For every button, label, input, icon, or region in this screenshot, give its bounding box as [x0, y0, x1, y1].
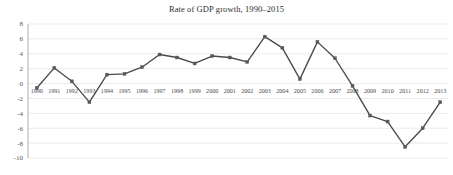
data-point-marker: [386, 120, 389, 123]
x-axis-tick-label: 2001: [224, 88, 236, 94]
y-axis-tick-label: -2: [17, 95, 23, 103]
y-axis: 86420-2-4-6-8-10: [14, 20, 28, 162]
y-axis-tick-label: -4: [17, 110, 23, 118]
data-point-marker: [53, 66, 56, 69]
x-axis-tick-label: 1997: [153, 88, 165, 94]
x-axis-tick-label: 1996: [136, 88, 148, 94]
x-axis-tick-label: 2009: [364, 88, 376, 94]
data-point-marker: [281, 46, 284, 49]
data-point-marker: [404, 145, 407, 148]
data-point-marker: [351, 84, 354, 87]
data-point-marker: [316, 40, 319, 43]
x-axis-tick-label: 1994: [101, 88, 113, 94]
data-point-marker: [123, 72, 126, 75]
data-point-marker: [298, 78, 301, 81]
x-axis-tick-label: 2013: [434, 88, 446, 94]
x-axis-tick-label: 2011: [399, 88, 411, 94]
x-axis-tick-label: 2005: [294, 88, 306, 94]
gdp-growth-chart: Rate of GDP growth, 1990–2015 86420-2-4-…: [0, 0, 453, 175]
x-axis-tick-label: 1993: [83, 88, 95, 94]
x-axis-tick-label: 2006: [311, 88, 323, 94]
data-point-marker: [263, 35, 266, 38]
data-point-marker: [158, 53, 161, 56]
y-axis-tick-label: -8: [17, 140, 23, 148]
data-point-marker: [193, 62, 196, 65]
data-point-marker: [70, 80, 73, 83]
y-axis-tick-label: 4: [20, 50, 24, 58]
chart-plot-area: 86420-2-4-6-8-10 19901991199219931994199…: [0, 0, 453, 175]
x-axis-tick-label: 2010: [382, 88, 394, 94]
y-axis-tick-label: 0: [20, 80, 24, 88]
data-point-marker: [141, 66, 144, 69]
y-axis-tick-label: -6: [17, 125, 23, 133]
data-point-marker: [228, 56, 231, 59]
x-axis-tick-label: 1992: [66, 88, 78, 94]
x-axis-tick-label: 1998: [171, 88, 183, 94]
x-axis-tick-label: 1991: [48, 88, 60, 94]
y-axis-tick-label: 6: [20, 35, 24, 43]
x-axis-tick-label: 2000: [206, 88, 218, 94]
x-axis-tick-label: 2002: [241, 88, 253, 94]
x-axis-labels: 1990199119921993199419951996199719981999…: [31, 88, 447, 94]
y-axis-tick-label: -10: [14, 154, 24, 162]
data-point-marker: [88, 101, 91, 104]
data-point-marker: [439, 101, 442, 104]
data-point-marker: [176, 56, 179, 59]
data-point-marker: [211, 55, 214, 58]
x-axis-tick-label: 1995: [118, 88, 130, 94]
y-axis-tick-label: 8: [20, 20, 24, 28]
x-axis-tick-label: 2003: [259, 88, 271, 94]
x-axis-tick-label: 2012: [417, 88, 429, 94]
data-point-marker: [35, 87, 38, 90]
x-axis-tick-label: 2004: [276, 88, 288, 94]
data-point-marker: [369, 114, 372, 117]
y-axis-tick-label: 2: [20, 65, 24, 73]
data-point-marker: [105, 73, 108, 76]
data-point-marker: [333, 57, 336, 60]
x-axis-tick-label: 1999: [189, 88, 201, 94]
data-point-marker: [246, 60, 249, 63]
series-line-gdp-growth: [37, 37, 440, 147]
x-axis-tick-label: 2007: [329, 88, 341, 94]
data-point-marker: [421, 127, 424, 130]
